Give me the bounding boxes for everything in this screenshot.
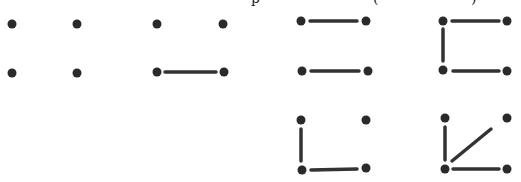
vertex-dot <box>297 116 306 125</box>
figure-fig-5 <box>297 116 371 175</box>
vertex-dot <box>298 67 307 76</box>
vertex-dot <box>298 166 307 175</box>
vertex-dot <box>362 116 371 125</box>
vertex-dot <box>73 20 82 29</box>
vertex-dot <box>8 20 17 29</box>
vertex-dot <box>297 17 306 26</box>
vertex-dot <box>362 164 371 173</box>
vertex-dot <box>503 114 512 123</box>
vertex-dot <box>73 69 82 78</box>
vertex-dot <box>364 67 373 76</box>
vertex-dot <box>153 68 162 77</box>
vertex-dot <box>153 20 162 29</box>
dot-line-diagram <box>0 0 521 182</box>
figure-fig-3 <box>297 17 373 76</box>
vertex-dot <box>220 68 229 77</box>
vertex-dot <box>441 114 450 123</box>
edge-line <box>311 169 357 170</box>
vertex-dot <box>503 67 512 76</box>
vertex-dot <box>441 165 450 174</box>
figure-fig-6 <box>441 114 512 174</box>
vertex-dot <box>8 69 17 78</box>
vertex-dot <box>439 66 448 75</box>
vertex-dot <box>503 165 512 174</box>
vertex-dot <box>219 20 228 29</box>
figure-fig-1 <box>8 20 82 78</box>
vertex-dot <box>362 17 371 26</box>
figure-fig-2 <box>153 20 229 77</box>
figure-fig-4 <box>439 17 512 76</box>
vertex-dot <box>439 17 448 26</box>
vertex-dot <box>503 17 512 26</box>
edge-line <box>452 129 491 161</box>
